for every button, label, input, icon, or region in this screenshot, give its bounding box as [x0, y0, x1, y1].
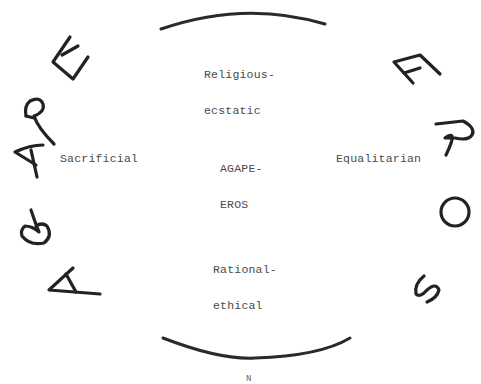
center-label-line1: AGAPE-: [220, 163, 263, 175]
bottom-arc: [163, 338, 350, 358]
top-label-line2: ecstatic: [204, 105, 275, 117]
left-letter-g: [21, 210, 49, 244]
right-letter-o: [441, 198, 469, 226]
footer-mark: N: [246, 373, 252, 384]
center-label: AGAPE- EROS: [220, 139, 263, 235]
top-label: Religious- ecstatic: [204, 45, 275, 141]
left-letter-e: [53, 37, 88, 79]
right-letter-s: [416, 276, 439, 302]
left-letter-a-middle: [15, 145, 43, 177]
bottom-label-line1: Rational-: [213, 264, 277, 276]
top-label-line1: Religious-: [204, 69, 275, 81]
right-letter-r: [436, 121, 473, 155]
top-arc: [161, 13, 325, 29]
bottom-label-line2: ethical: [213, 300, 277, 312]
left-letter-a-bottom: [49, 268, 100, 294]
center-label-line2: EROS: [220, 199, 263, 211]
right-label: Equalitarian: [336, 153, 421, 165]
left-letter-p: [26, 99, 55, 144]
diagram-canvas: Religious- ecstatic AGAPE- EROS Sacrific…: [0, 0, 481, 384]
left-label: Sacrificial: [60, 153, 138, 165]
right-letter-e: [394, 55, 440, 83]
bottom-label: Rational- ethical: [213, 240, 277, 336]
